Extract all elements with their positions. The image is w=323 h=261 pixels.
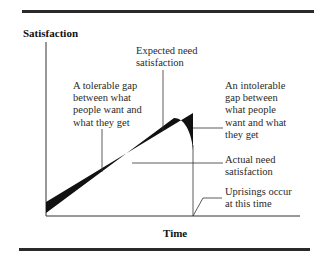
- intolerable-label: An intolerable gap between what people w…: [225, 80, 286, 141]
- uprisings-label: Uprisings occur at this time: [225, 186, 292, 210]
- tolerable-label: A tolerable gap between what people want…: [73, 80, 142, 129]
- uprising-leader: [193, 198, 222, 216]
- y-axis-label: Satisfaction: [23, 27, 78, 39]
- actual-label: Actual need satisfaction: [225, 154, 275, 178]
- expected-label: Expected need satisfaction: [136, 45, 198, 69]
- x-axis-label: Time: [163, 227, 187, 239]
